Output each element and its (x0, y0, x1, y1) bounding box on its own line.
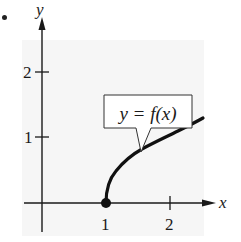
y-tick-label-2: 2 (23, 63, 32, 82)
x-tick-label-2: 2 (165, 215, 174, 234)
chart-canvas: y x 2 1 1 2 y = f(x) (0, 0, 241, 242)
figure: y x 2 1 1 2 y = f(x) (0, 0, 241, 242)
y-tick-label-1: 1 (24, 128, 33, 147)
plot-panel (22, 40, 204, 236)
x-tick-label-1: 1 (101, 215, 110, 234)
x-axis-arrow-icon (202, 200, 216, 207)
start-point-marker (101, 198, 111, 208)
y-axis-label: y (34, 0, 44, 19)
x-axis-label: x (218, 193, 227, 212)
list-bullet (2, 15, 7, 20)
function-label-text: y = f(x) (117, 103, 176, 125)
